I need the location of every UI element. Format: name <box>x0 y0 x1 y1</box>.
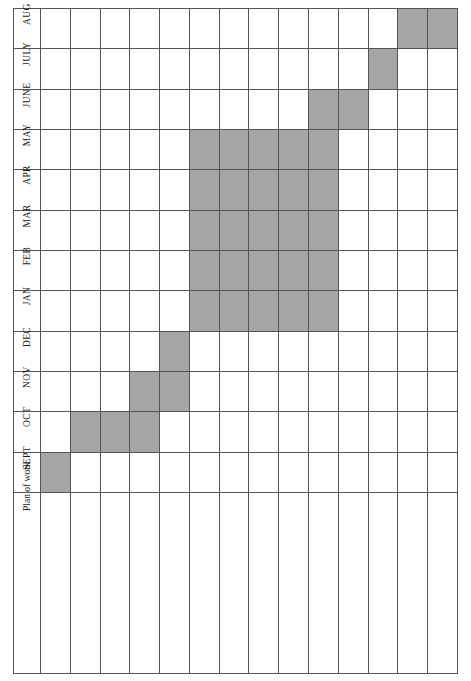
gantt-bar-cell <box>249 170 279 210</box>
gantt-empty-cell <box>130 129 160 169</box>
gantt-bar-cell <box>189 210 219 250</box>
gantt-bar-cell <box>249 250 279 290</box>
task-label-rotator: Decide on a research approach and review… <box>219 673 220 674</box>
gantt-empty-cell <box>189 9 219 49</box>
gantt-empty-cell <box>428 210 458 250</box>
gantt-month-row: FEB <box>14 250 458 290</box>
gantt-bar-cell <box>309 129 339 169</box>
month-label-text: JULY <box>22 41 32 67</box>
plan-of-work-header: Plan of work <box>14 493 41 674</box>
task-label-12: Submit dissertation on time! <box>398 493 428 674</box>
gantt-bar-cell <box>189 291 219 331</box>
gantt-empty-cell <box>160 170 190 210</box>
gantt-month-row: OCT <box>14 412 458 452</box>
task-label-10: Have a draft of your dissertation ready … <box>338 493 368 674</box>
gantt-empty-cell <box>398 49 428 89</box>
gantt-empty-cell <box>130 291 160 331</box>
gantt-empty-cell <box>338 291 368 331</box>
gantt-empty-cell <box>70 49 100 89</box>
gantt-month-row: MAR <box>14 210 458 250</box>
gantt-empty-cell <box>309 331 339 371</box>
gantt-empty-cell <box>309 452 339 492</box>
gantt-empty-cell <box>368 210 398 250</box>
gantt-empty-cell <box>338 49 368 89</box>
month-label-text: MAY <box>22 122 32 148</box>
gantt-bar-cell <box>428 9 458 49</box>
month-label-text: MAR <box>22 203 32 229</box>
month-label-text: OCT <box>22 404 32 430</box>
gantt-empty-cell <box>160 412 190 452</box>
gantt-empty-cell <box>368 89 398 129</box>
gantt-bar-cell <box>189 250 219 290</box>
task-label-3: Make contact with your supervisor and pl… <box>130 493 160 674</box>
task-label-rotator: Continue literature searching and apprai… <box>249 673 250 674</box>
task-label-rotator: Consider topic, research question and dr… <box>70 673 71 674</box>
gantt-empty-cell <box>309 49 339 89</box>
task-label-rotator: Read module guidelines so you know exact… <box>41 673 42 674</box>
gantt-empty-cell <box>70 331 100 371</box>
gantt-empty-cell <box>428 412 458 452</box>
gantt-empty-cell <box>428 250 458 290</box>
gantt-empty-cell <box>249 89 279 129</box>
gantt-empty-cell <box>428 129 458 169</box>
gantt-empty-cell <box>309 371 339 411</box>
gantt-empty-cell <box>70 291 100 331</box>
gantt-empty-cell <box>219 9 249 49</box>
gantt-empty-cell <box>160 49 190 89</box>
gantt-empty-cell <box>398 210 428 250</box>
gantt-empty-cell <box>338 210 368 250</box>
gantt-empty-cell <box>398 250 428 290</box>
gantt-empty-cell <box>219 371 249 411</box>
task-label-rotator: Critically appraise the evidence using a… <box>189 673 190 674</box>
gantt-month-row: JAN <box>14 291 458 331</box>
gantt-empty-cell <box>41 49 71 89</box>
task-label-6: Decide on a research approach and review… <box>219 493 249 674</box>
gantt-bar-cell <box>41 452 71 492</box>
gantt-empty-cell <box>100 129 130 169</box>
task-label-11: Reflect on advice and suggestions, revis… <box>368 493 398 674</box>
gantt-empty-cell <box>338 331 368 371</box>
task-label-rotator: Submit dissertation on time! <box>398 673 399 674</box>
task-label-5: Critically appraise the evidence using a… <box>189 493 219 674</box>
task-label-13: (Remember you lose marks if it is handed… <box>428 493 458 674</box>
gantt-empty-cell <box>428 170 458 210</box>
gantt-empty-cell <box>398 331 428 371</box>
gantt-bar-cell <box>249 210 279 250</box>
gantt-empty-cell <box>70 210 100 250</box>
gantt-bar-cell <box>368 49 398 89</box>
gantt-empty-cell <box>70 371 100 411</box>
gantt-empty-cell <box>160 291 190 331</box>
gantt-empty-cell <box>70 9 100 49</box>
gantt-empty-cell <box>428 89 458 129</box>
gantt-empty-cell <box>100 170 130 210</box>
gantt-empty-cell <box>398 452 428 492</box>
gantt-month-row: AUG <box>14 9 458 49</box>
gantt-empty-cell <box>279 452 309 492</box>
gantt-empty-cell <box>100 331 130 371</box>
gantt-empty-cell <box>160 129 190 169</box>
gantt-empty-cell <box>189 331 219 371</box>
gantt-table: AUGJULYJUNEMAYAPRMARFEBJANDECNOVOCTSEPTP… <box>13 8 458 674</box>
gantt-empty-cell <box>309 9 339 49</box>
gantt-bar-cell <box>219 210 249 250</box>
gantt-empty-cell <box>130 331 160 371</box>
gantt-empty-cell <box>249 452 279 492</box>
month-label-text: JAN <box>22 283 32 309</box>
gantt-empty-cell <box>428 291 458 331</box>
gantt-bar-cell <box>309 291 339 331</box>
gantt-empty-cell <box>70 129 100 169</box>
gantt-empty-cell <box>219 49 249 89</box>
gantt-empty-cell <box>41 331 71 371</box>
gantt-empty-cell <box>189 452 219 492</box>
gantt-empty-cell <box>219 331 249 371</box>
gantt-empty-cell <box>189 49 219 89</box>
gantt-empty-cell <box>398 89 428 129</box>
gantt-empty-cell <box>70 452 100 492</box>
gantt-bar-cell <box>160 331 190 371</box>
task-label-rotator: Make contact with your supervisor and pl… <box>130 673 131 674</box>
task-label-2: (this may change as you progress) <box>100 493 130 674</box>
gantt-empty-cell <box>368 170 398 210</box>
gantt-empty-cell <box>338 452 368 492</box>
gantt-empty-cell <box>279 89 309 129</box>
plan-of-work-header-text: Plan of work <box>22 485 32 511</box>
